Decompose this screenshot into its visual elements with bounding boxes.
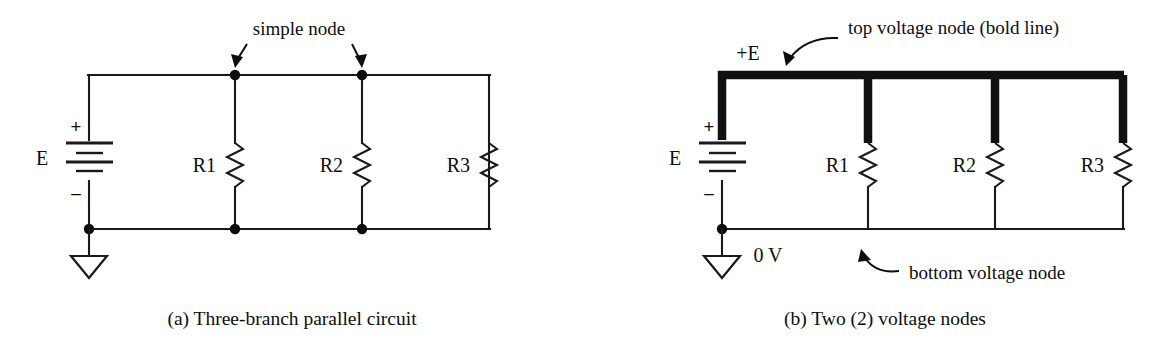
simple-node-arrowhead-right-a (355, 54, 367, 68)
resistor-label-r2-b: R2 (953, 154, 976, 176)
node-dot-bottom-r2-a (357, 224, 367, 234)
simple-node-arrowhead-left-a (231, 54, 243, 68)
circuit-figure: E + – R1 R2 R3 simple node (a) Three-bra… (0, 0, 1160, 356)
r2-resistor-a (354, 143, 370, 187)
resistor-label-r1-a: R1 (193, 154, 216, 176)
ground-symbol-b (704, 229, 740, 278)
top-node-leader-b (790, 38, 838, 58)
caption-b: (b) Two (2) voltage nodes (784, 308, 986, 330)
r2-resistor-b (987, 143, 1003, 187)
top-voltage-node-annotation-b (783, 38, 838, 66)
r1-resistor-b (860, 143, 876, 187)
r1-resistor-a (227, 143, 243, 187)
bottom-voltage-node-annotation-b (858, 249, 899, 271)
polarity-minus-a: – (70, 182, 81, 203)
resistor-label-r3-b: R3 (1081, 154, 1104, 176)
polarity-plus-a: + (71, 116, 82, 137)
source-label-a: E (36, 147, 48, 169)
simple-node-label-a: simple node (253, 18, 345, 39)
simple-node-annotation-a (231, 44, 367, 68)
resistor-label-r1-b: R1 (826, 154, 849, 176)
node-dot-top-r2-a (357, 70, 367, 80)
battery-symbol-b (699, 143, 746, 171)
node-dot-top-r1-a (230, 70, 240, 80)
resistor-label-r2-a: R2 (320, 154, 343, 176)
bottom-voltage-node-label-b: bottom voltage node (909, 262, 1065, 283)
ground-triangle-a (71, 256, 107, 278)
top-node-voltage-label-b: +E (736, 42, 760, 64)
panel-b: E + – R1 R2 R3 +E 0 V top voltage node (… (669, 17, 1131, 330)
polarity-minus-b: – (703, 182, 714, 203)
source-label-b: E (669, 147, 681, 169)
node-dot-bottom-r1-a (230, 224, 240, 234)
top-voltage-node-rail-b (722, 75, 1124, 140)
ground-triangle-b (704, 256, 740, 278)
bottom-node-voltage-label-b: 0 V (753, 244, 783, 266)
r3-resistor-b (1115, 143, 1131, 187)
caption-a: (a) Three-branch parallel circuit (167, 308, 417, 330)
resistor-label-r3-a: R3 (447, 154, 470, 176)
polarity-plus-b: + (704, 116, 715, 137)
top-voltage-node-label-b: top voltage node (bold line) (848, 17, 1059, 39)
ground-symbol-a (71, 229, 107, 278)
panel-a: E + – R1 R2 R3 simple node (a) Three-bra… (36, 18, 497, 330)
circuit-diagram-canvas: E + – R1 R2 R3 simple node (a) Three-bra… (0, 0, 1160, 356)
bottom-node-arrowhead-b (858, 249, 871, 262)
battery-symbol-a (66, 143, 113, 171)
